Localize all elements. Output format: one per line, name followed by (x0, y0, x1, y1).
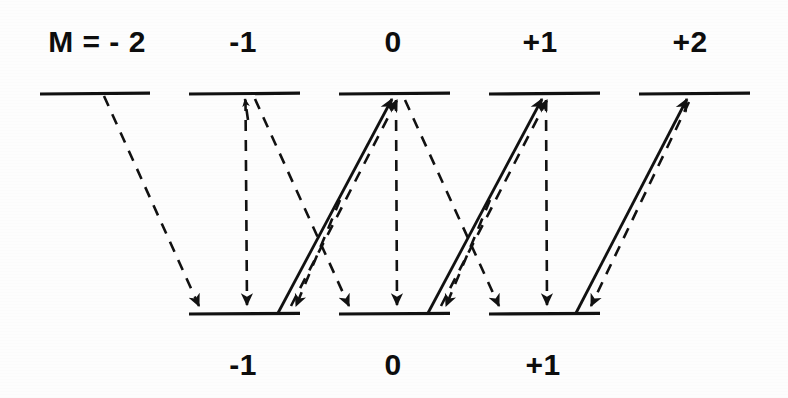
transition-arrow-t12 (546, 100, 547, 305)
transition-arrow-t5 (278, 99, 392, 313)
upper-level-lines (40, 93, 750, 94)
lower-level-line-m-minus-1 (189, 313, 300, 314)
lower-label-row: -1 0 +1 (229, 348, 560, 381)
upper-label-m-zero: 0 (384, 25, 401, 58)
transition-arrow-t7 (296, 200, 340, 306)
lower-level-line-m-zero (339, 313, 450, 314)
transition-arrow-t11 (441, 100, 547, 306)
upper-label-m-minus-1: -1 (229, 25, 257, 58)
transition-arrow-t4 (255, 99, 349, 306)
transition-arrow-t1 (104, 96, 199, 306)
transition-arrow-t7b (446, 200, 490, 306)
transition-arrow-t9 (405, 100, 499, 306)
level-diagram-canvas: M = - 2 -1 0 +1 +2 (0, 0, 788, 398)
upper-level-line-m-minus-2 (40, 93, 150, 94)
transition-arrow-t2 (246, 100, 248, 305)
upper-level-line-m-plus-2 (639, 93, 750, 94)
lower-label-m-plus-1: +1 (525, 348, 560, 381)
upper-level-line-m-plus-1 (489, 93, 600, 94)
transition-arrow-t6 (291, 100, 397, 306)
transition-arrow-t13 (576, 99, 687, 313)
transition-arrow-t8 (396, 100, 397, 305)
lower-level-line-m-plus-1 (489, 313, 600, 314)
upper-label-m-plus-1: +1 (522, 25, 557, 58)
upper-label-row: M = - 2 -1 0 +1 +2 (48, 25, 707, 58)
lower-label-m-minus-1: -1 (229, 348, 257, 381)
lower-label-m-zero: 0 (384, 348, 401, 381)
upper-label-m-minus-2: M = - 2 (48, 25, 146, 58)
upper-level-line-m-minus-1 (189, 93, 300, 94)
energy-level-diagram: M = - 2 -1 0 +1 +2 (0, 0, 788, 398)
transition-arrows (104, 96, 689, 313)
upper-level-line-m-zero (339, 93, 450, 94)
upper-label-m-plus-2: +2 (672, 25, 707, 58)
transition-arrow-t10 (428, 99, 542, 313)
transition-arrow-t14 (591, 102, 689, 306)
lower-level-lines (189, 313, 600, 314)
